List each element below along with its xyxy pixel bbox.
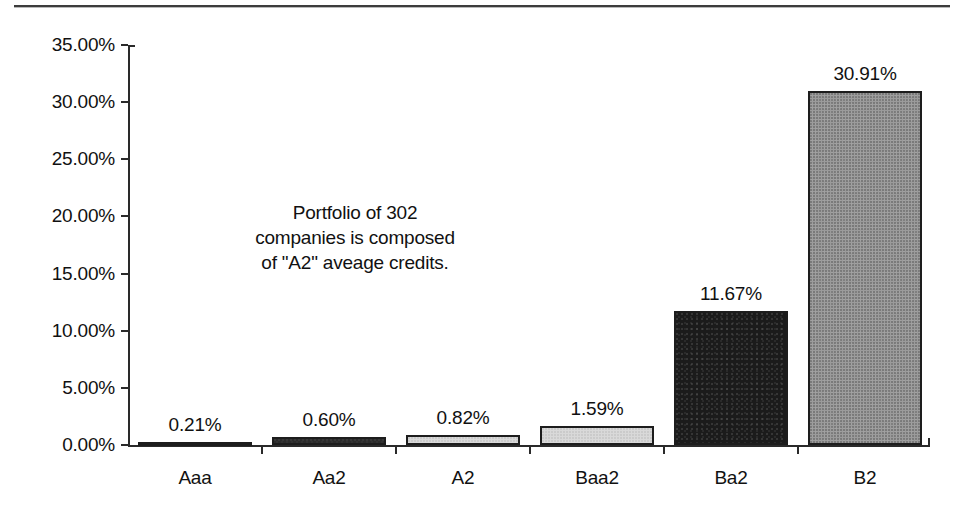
x-tick-mark xyxy=(529,445,531,454)
bar-aaa[interactable] xyxy=(138,442,252,446)
bar-a2[interactable] xyxy=(406,435,520,445)
bar-value-label-aa2: 0.60% xyxy=(303,409,356,431)
x-category-label-ba2: Ba2 xyxy=(714,467,747,489)
y-tick-mark xyxy=(121,387,128,389)
chart-annotation: Portfolio of 302 companies is composed o… xyxy=(200,200,510,275)
x-axis-right-cap xyxy=(928,438,930,447)
x-category-label-a2: A2 xyxy=(452,467,475,489)
y-axis-label: 0.00% xyxy=(62,434,115,456)
y-axis-label: 15.00% xyxy=(52,263,115,285)
y-tick-mark xyxy=(121,215,128,217)
bar-value-label-aaa: 0.21% xyxy=(169,414,222,436)
y-axis-label: 5.00% xyxy=(62,377,115,399)
y-tick-mark xyxy=(121,273,128,275)
y-axis-line xyxy=(128,45,130,445)
chart-annotation-line-2: companies is composed xyxy=(200,225,510,250)
x-category-label-aa2: Aa2 xyxy=(312,467,345,489)
y-tick-mark xyxy=(121,44,128,46)
bar-ba2[interactable] xyxy=(674,311,788,445)
x-tick-mark xyxy=(395,445,397,454)
x-category-label-baa2: Baa2 xyxy=(575,467,619,489)
bar-value-label-ba2: 11.67% xyxy=(700,283,762,305)
page-top-rule xyxy=(14,5,950,7)
y-axis-top-cap xyxy=(128,45,135,47)
chart-annotation-line-3: of "A2" aveage credits. xyxy=(200,250,510,275)
y-axis-label: 10.00% xyxy=(52,320,115,342)
x-tick-mark xyxy=(797,445,799,454)
x-category-label-aaa: Aaa xyxy=(178,467,211,489)
bar-value-label-b2: 30.91% xyxy=(833,63,896,85)
bar-aa2[interactable] xyxy=(272,437,386,445)
x-category-label-b2: B2 xyxy=(854,467,877,489)
plot-area: 0.00% 5.00% 10.00% 15.00% 20.00% 25.00% … xyxy=(128,45,930,445)
y-axis-label: 25.00% xyxy=(52,148,115,170)
y-axis-label: 20.00% xyxy=(52,205,115,227)
bar-value-label-baa2: 1.59% xyxy=(571,398,624,420)
y-axis-label: 30.00% xyxy=(52,91,115,113)
bar-baa2[interactable] xyxy=(540,426,654,445)
bar-b2[interactable] xyxy=(808,91,922,445)
y-axis-label: 35.00% xyxy=(52,34,115,56)
x-tick-mark xyxy=(663,445,665,454)
x-tick-mark xyxy=(261,445,263,454)
bar-value-label-a2: 0.82% xyxy=(437,407,490,429)
y-tick-mark xyxy=(121,158,128,160)
y-tick-mark xyxy=(121,444,128,446)
chart-annotation-line-1: Portfolio of 302 xyxy=(200,200,510,225)
y-tick-mark xyxy=(121,330,128,332)
y-tick-mark xyxy=(121,101,128,103)
bar-chart: 0.00% 5.00% 10.00% 15.00% 20.00% 25.00% … xyxy=(0,0,961,509)
